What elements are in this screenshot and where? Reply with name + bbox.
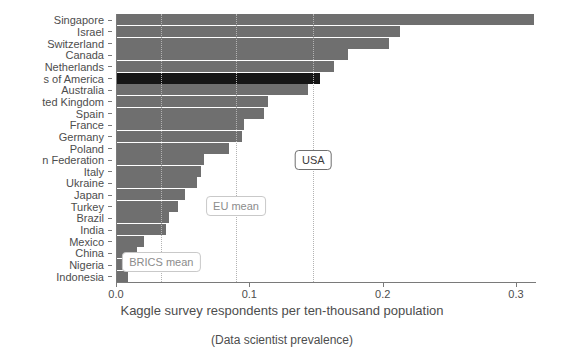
bar-france: [117, 119, 244, 130]
bar-fill: [117, 14, 534, 25]
x-axis-tick-label: 0.1: [242, 288, 257, 300]
bar-indonesia: [117, 271, 128, 282]
bar-fill: [117, 271, 128, 282]
bar-fill: [117, 96, 268, 107]
x-axis-tick-mark: [249, 282, 250, 287]
y-axis-tick-label: Japan: [74, 190, 104, 201]
y-axis-tick-mark: [108, 31, 112, 32]
y-axis-tick-label: Mexico: [69, 237, 104, 248]
bar-fill: [117, 73, 320, 84]
y-axis-tick-mark: [108, 125, 112, 126]
plot-area: [116, 14, 536, 282]
y-axis-tick-label: Brazil: [76, 213, 104, 224]
y-axis-tick-label: Ukraine: [66, 178, 104, 189]
y-axis-tick-label: Indonesia: [56, 272, 104, 283]
bar-singapore: [117, 14, 534, 25]
bar-italy: [117, 166, 201, 177]
bar-fill: [117, 177, 197, 188]
bar-fill: [117, 119, 244, 130]
bar-fill: [117, 143, 229, 154]
annotation-label-eu-mean: EU mean: [206, 196, 266, 216]
bar-poland: [117, 143, 229, 154]
x-axis-tick-mark: [516, 282, 517, 287]
y-axis-tick-mark: [108, 113, 112, 114]
bar-mexico: [117, 236, 144, 247]
y-axis-tick-label: Switzerland: [47, 39, 104, 50]
bar-fill: [117, 154, 204, 165]
reference-line-eu-mean: [236, 14, 237, 282]
chart-subtitle: (Data scientist prevalence): [0, 333, 564, 347]
y-axis-tick-label: Australia: [61, 85, 104, 96]
bar-fill: [117, 224, 166, 235]
y-axis-tick-mark: [108, 78, 112, 79]
bar-turkey: [117, 201, 178, 212]
y-axis-tick-mark: [108, 218, 112, 219]
y-axis-tick-mark: [108, 276, 112, 277]
y-axis-tick-mark: [108, 206, 112, 207]
y-axis-tick-mark: [108, 136, 112, 137]
x-axis-tick-label: 0.0: [108, 288, 123, 300]
reference-line-usa: [313, 14, 314, 282]
y-axis-tick-mark: [108, 90, 112, 91]
y-axis-tick-mark: [108, 148, 112, 149]
x-axis-title: Kaggle survey respondents per ten-thousa…: [0, 303, 564, 318]
y-axis-tick-label: Spain: [76, 109, 104, 120]
reference-line-brics-mean: [161, 14, 162, 282]
y-axis-tick-label: s of America: [43, 74, 104, 85]
y-axis-tick-mark: [108, 171, 112, 172]
bar-australia: [117, 84, 308, 95]
y-axis-tick-mark: [108, 183, 112, 184]
x-axis-tick-label: 0.3: [508, 288, 523, 300]
y-axis-tick-mark: [108, 20, 112, 21]
bar-fill: [117, 189, 185, 200]
y-axis-tick-label: China: [75, 248, 104, 259]
x-axis-tick-label: 0.2: [375, 288, 390, 300]
y-axis-tick-label: France: [70, 120, 104, 131]
y-axis-labels: SingaporeIsraelSwitzerlandCanadaNetherla…: [0, 14, 112, 282]
y-axis-tick-mark: [108, 265, 112, 266]
bar-israel: [117, 26, 400, 37]
bar-ted-kingdom: [117, 96, 268, 107]
y-axis-tick-label: Germany: [59, 132, 104, 143]
bar-fill: [117, 38, 389, 49]
bar-fill: [117, 26, 400, 37]
y-axis-tick-label: Italy: [84, 167, 104, 178]
bar-fill: [117, 108, 264, 119]
bar-chart: SingaporeIsraelSwitzerlandCanadaNetherla…: [0, 0, 564, 359]
bar-ukraine: [117, 177, 197, 188]
bar-netherlands: [117, 61, 334, 72]
y-axis-tick-mark: [108, 55, 112, 56]
x-axis-line: [116, 282, 536, 283]
y-axis-tick-label: Netherlands: [45, 62, 104, 73]
y-axis-tick-label: Canada: [65, 50, 104, 61]
y-axis-tick-label: India: [80, 225, 104, 236]
y-axis-tick-mark: [108, 66, 112, 67]
bar-fill: [117, 61, 334, 72]
y-axis-tick-mark: [108, 195, 112, 196]
x-axis-tick-mark: [383, 282, 384, 287]
annotation-label-usa: USA: [295, 150, 332, 170]
bar-fill: [117, 84, 308, 95]
y-axis-tick-label: Poland: [70, 144, 104, 155]
annotation-label-brics-mean: BRICS mean: [122, 252, 200, 272]
bar-n-federation: [117, 154, 204, 165]
y-axis-tick-label: Israel: [77, 27, 104, 38]
bar-s-of-america: [117, 73, 320, 84]
y-axis-tick-label: n Federation: [42, 155, 104, 166]
y-axis-tick-label: Singapore: [54, 15, 104, 26]
y-axis-tick-mark: [108, 160, 112, 161]
bar-spain: [117, 108, 264, 119]
bar-japan: [117, 189, 185, 200]
y-axis-tick-mark: [108, 253, 112, 254]
bar-series: [117, 14, 536, 282]
bar-fill: [117, 236, 144, 247]
y-axis-tick-mark: [108, 230, 112, 231]
y-axis-tick-label: ted Kingdom: [42, 97, 104, 108]
y-axis-tick-label: Turkey: [71, 202, 104, 213]
y-axis-tick-mark: [108, 43, 112, 44]
bar-switzerland: [117, 38, 389, 49]
bar-fill: [117, 201, 178, 212]
bar-germany: [117, 131, 242, 142]
bar-fill: [117, 131, 242, 142]
y-axis-tick-mark: [108, 101, 112, 102]
